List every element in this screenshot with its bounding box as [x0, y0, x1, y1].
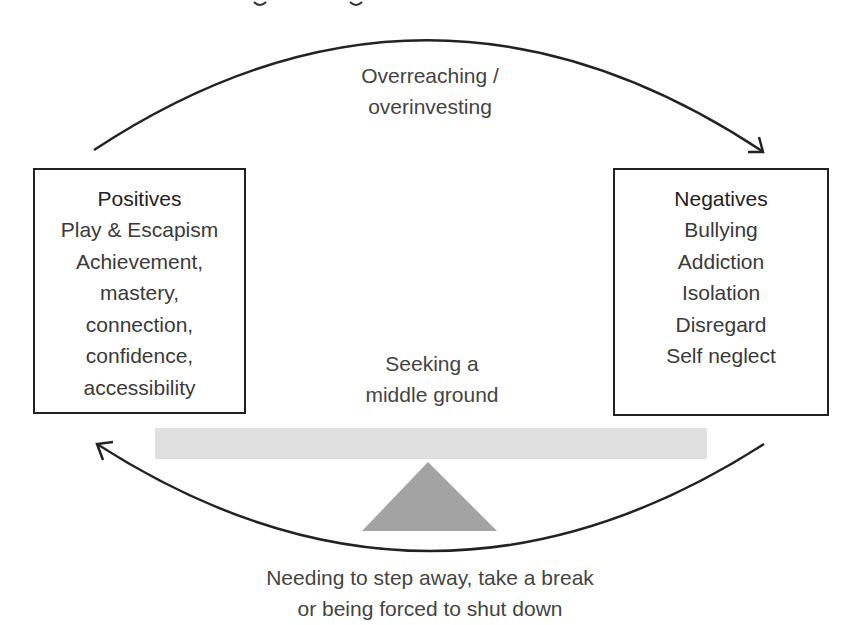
top-arrow-label: Overreaching / overinvesting: [300, 60, 560, 122]
balance-label: Seeking a middle ground: [320, 348, 544, 410]
negatives-item: Bullying: [615, 214, 827, 246]
bottom-arrow-label-line1: Needing to step away, take a break: [180, 562, 680, 593]
balance-beam: [155, 428, 707, 459]
fulcrum-triangle: [362, 462, 497, 531]
bottom-arrow-label-line2: or being forced to shut down: [180, 593, 680, 624]
bottom-arrowhead-icon: [97, 442, 113, 460]
positives-title: Positives: [35, 184, 244, 214]
balance-label-line2: middle ground: [320, 379, 544, 410]
positives-item: mastery,: [35, 277, 244, 309]
negatives-item: Isolation: [615, 277, 827, 309]
negatives-item: Addiction: [615, 246, 827, 278]
top-arrow-label-line2: overinvesting: [300, 91, 560, 122]
positives-item: Achievement,: [35, 246, 244, 278]
balance-label-line1: Seeking a: [320, 348, 544, 379]
negatives-item: Self neglect: [615, 340, 827, 372]
top-arrow-label-line1: Overreaching /: [300, 60, 560, 91]
positives-box: Positives Play & Escapism Achievement, m…: [33, 168, 246, 414]
bottom-arrow-label: Needing to step away, take a break or be…: [180, 562, 680, 624]
positives-item: connection,: [35, 309, 244, 341]
negatives-item: Disregard: [615, 309, 827, 341]
negatives-box: Negatives Bullying Addiction Isolation D…: [613, 168, 829, 416]
negatives-title: Negatives: [615, 184, 827, 214]
positives-item: confidence,: [35, 340, 244, 372]
clipped-title-fragment: [254, 2, 362, 5]
positives-item: Play & Escapism: [35, 214, 244, 246]
positives-item: accessibility: [35, 372, 244, 404]
